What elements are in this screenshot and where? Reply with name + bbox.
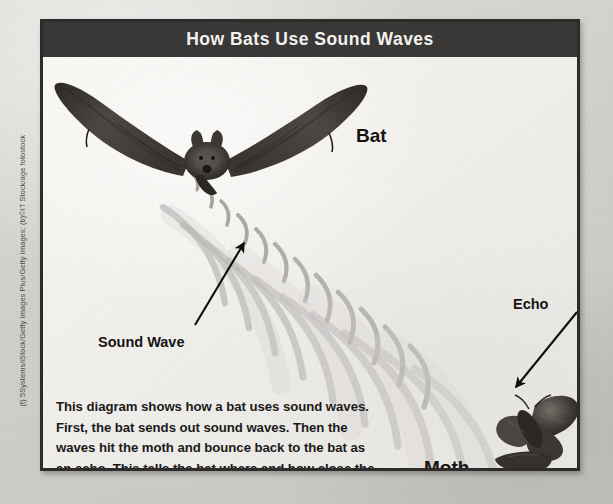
diagram-frame: How Bats Use Sound Waves xyxy=(40,19,580,471)
echo-arrow xyxy=(516,312,577,387)
figure-caption: This diagram shows how a bat uses sound … xyxy=(56,397,378,468)
label-sound-wave: Sound Wave xyxy=(98,334,184,350)
diagram-title-bar: How Bats Use Sound Waves xyxy=(43,22,577,57)
photo-credit: (t) 5Systems/iStock/Getty Images Plus/Ge… xyxy=(18,135,28,475)
diagram-title: How Bats Use Sound Waves xyxy=(186,29,434,50)
label-bat: Bat xyxy=(356,125,387,147)
label-echo: Echo xyxy=(513,296,548,312)
diagram-canvas: Bat Moth Echo Sound Wave This diagram sh… xyxy=(43,57,577,468)
moth-illustration xyxy=(495,395,577,468)
bat-illustration xyxy=(55,83,368,195)
label-moth: Moth xyxy=(424,457,469,468)
